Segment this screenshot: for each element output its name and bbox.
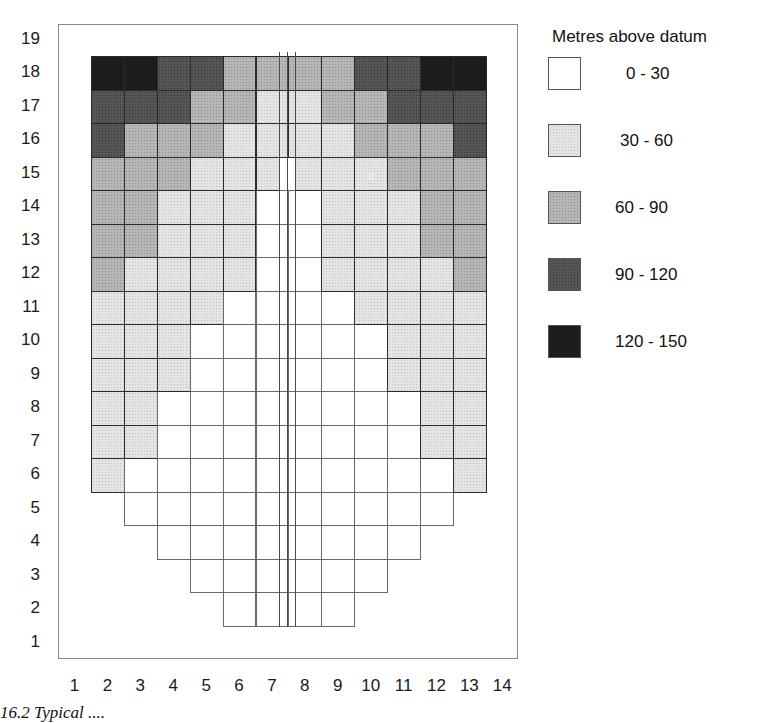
grid-cell xyxy=(190,525,224,560)
grid-cell xyxy=(124,157,158,192)
grid-cell xyxy=(157,123,191,158)
legend-swatch xyxy=(548,258,581,291)
x-tick-label: 12 xyxy=(421,676,451,696)
grid-cell xyxy=(321,592,355,627)
grid-cell xyxy=(190,123,224,158)
x-tick-label: 10 xyxy=(356,676,386,696)
grid-cell xyxy=(321,224,355,259)
grid-cell xyxy=(420,224,454,259)
grid-cell xyxy=(354,90,388,125)
grid-cell xyxy=(124,56,158,91)
grid-cell xyxy=(354,525,388,560)
grid-cell xyxy=(223,56,257,91)
grid-cell xyxy=(288,358,322,393)
legend-title: Metres above datum xyxy=(552,27,707,47)
grid-cell xyxy=(91,425,125,460)
grid-cell xyxy=(420,492,454,527)
grid-cell xyxy=(91,324,125,359)
x-tick-label: 1 xyxy=(60,676,90,696)
grid-cell xyxy=(157,257,191,292)
grid-cell xyxy=(354,56,388,91)
grid-cell xyxy=(256,391,290,426)
grid-cell xyxy=(387,291,421,326)
grid-cell xyxy=(157,224,191,259)
grid-cell xyxy=(223,123,257,158)
grid-cell xyxy=(124,190,158,225)
grid-cell xyxy=(190,90,224,125)
grid-cell xyxy=(223,324,257,359)
grid-cell xyxy=(453,425,487,460)
legend-label: 30 - 60 xyxy=(620,131,673,151)
grid-cell xyxy=(387,525,421,560)
grid-cell xyxy=(288,391,322,426)
grid-cell xyxy=(190,391,224,426)
grid-cell xyxy=(420,90,454,125)
annotation-mark: c xyxy=(368,168,375,183)
y-tick-label: 5 xyxy=(10,498,40,518)
y-tick-label: 2 xyxy=(10,598,40,618)
x-tick-label: 2 xyxy=(92,676,122,696)
legend-swatch xyxy=(548,124,581,157)
grid-cell xyxy=(157,291,191,326)
x-tick-label: 13 xyxy=(454,676,484,696)
grid-cell xyxy=(288,559,322,594)
grid-cell xyxy=(321,257,355,292)
grid-cell xyxy=(387,492,421,527)
grid-cell xyxy=(190,425,224,460)
y-tick-label: 18 xyxy=(10,62,40,82)
grid-cell xyxy=(124,425,158,460)
grid-cell xyxy=(321,190,355,225)
grid-cell xyxy=(321,525,355,560)
grid-cell xyxy=(157,90,191,125)
grid-cell xyxy=(321,90,355,125)
grid-cell xyxy=(354,559,388,594)
grid-cell xyxy=(288,224,322,259)
center-strip-line xyxy=(287,52,288,627)
grid-cell xyxy=(223,425,257,460)
grid-cell xyxy=(256,123,290,158)
grid-cell xyxy=(157,358,191,393)
grid-cell xyxy=(223,157,257,192)
grid-cell xyxy=(321,324,355,359)
grid-cell xyxy=(420,190,454,225)
grid-cell xyxy=(354,224,388,259)
grid-cell xyxy=(157,190,191,225)
grid-cell xyxy=(354,257,388,292)
grid-cell xyxy=(354,190,388,225)
grid-cell xyxy=(124,291,158,326)
grid-cell xyxy=(387,391,421,426)
y-tick-label: 14 xyxy=(10,196,40,216)
grid-cell xyxy=(190,358,224,393)
x-tick-label: 7 xyxy=(257,676,287,696)
grid-cell xyxy=(321,291,355,326)
grid-cell xyxy=(256,291,290,326)
grid-cell xyxy=(288,324,322,359)
grid-cell xyxy=(387,157,421,192)
grid-cell xyxy=(354,324,388,359)
y-tick-label: 16 xyxy=(10,129,40,149)
grid-cell xyxy=(91,358,125,393)
y-tick-label: 9 xyxy=(10,364,40,384)
grid-cell xyxy=(420,425,454,460)
grid-cell xyxy=(321,492,355,527)
grid-cell xyxy=(321,458,355,493)
grid-cell xyxy=(190,291,224,326)
grid-cell xyxy=(354,123,388,158)
grid-cell xyxy=(91,123,125,158)
grid-cell xyxy=(288,257,322,292)
y-tick-label: 4 xyxy=(10,531,40,551)
grid-cell xyxy=(157,458,191,493)
y-tick-label: 13 xyxy=(10,230,40,250)
grid-cell xyxy=(321,123,355,158)
grid-cell xyxy=(124,90,158,125)
grid-cell xyxy=(190,157,224,192)
y-tick-label: 1 xyxy=(10,632,40,652)
grid-cell xyxy=(256,224,290,259)
grid-cell xyxy=(223,291,257,326)
x-tick-label: 9 xyxy=(323,676,353,696)
grid-cell xyxy=(453,123,487,158)
grid-cell xyxy=(453,190,487,225)
grid-cell xyxy=(190,190,224,225)
grid-cell xyxy=(256,90,290,125)
